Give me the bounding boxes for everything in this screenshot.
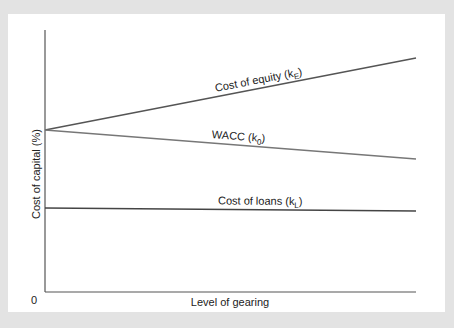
origin-label: 0 <box>31 294 37 306</box>
cost-of-capital-chart: Cost of equity (kE)WACC (k0)Cost of loan… <box>0 0 454 328</box>
series-layer: Cost of equity (kE)WACC (k0)Cost of loan… <box>45 58 416 211</box>
chart-stage: Cost of equity (kE)WACC (k0)Cost of loan… <box>0 0 454 328</box>
y-axis-label: Cost of capital (%) <box>30 129 42 219</box>
series-label-cost-of-loans: Cost of loans (kL) <box>218 194 303 210</box>
series-label-cost-of-equity: Cost of equity (kE) <box>214 65 304 97</box>
x-axis-label: Level of gearing <box>191 296 269 308</box>
series-line-cost-of-equity <box>45 58 416 130</box>
series-line-cost-of-loans <box>45 208 416 211</box>
